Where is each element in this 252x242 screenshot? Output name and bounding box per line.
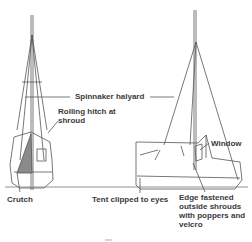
label-window: Window xyxy=(211,139,242,148)
crutch-shading xyxy=(17,134,32,173)
label-tent-clipped: Tent clipped to eyes xyxy=(92,195,168,204)
label-crutch: Crutch xyxy=(7,195,33,204)
tent-top xyxy=(14,132,50,142)
label-rolling-hitch: Rolling hitch at shroud xyxy=(58,107,116,125)
label-edge-fastened: Edge fastened outside shrouds with poppe… xyxy=(179,193,245,229)
boat-tent-diagram: Spinnaker halyard Rolling hitch at shrou… xyxy=(0,0,252,242)
window-end-view xyxy=(37,149,46,161)
side-view xyxy=(136,10,242,193)
label-spinnaker-halyard: Spinnaker halyard xyxy=(75,92,144,101)
end-view xyxy=(10,15,70,192)
crutch-leader xyxy=(17,173,20,192)
